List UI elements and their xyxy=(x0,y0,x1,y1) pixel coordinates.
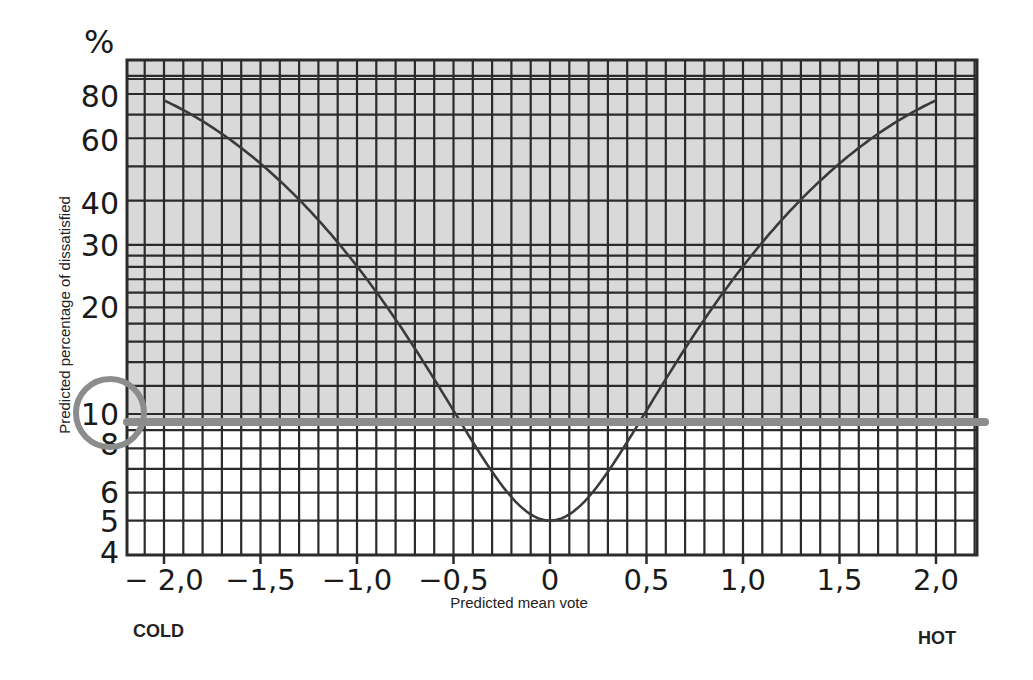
x-tick-label: − 2,0 xyxy=(124,563,204,597)
x-tick-label: −1,0 xyxy=(322,563,392,597)
y-tick-label: 40 xyxy=(81,186,119,221)
y-tick-label: 20 xyxy=(81,290,119,325)
x-tick-labels: − 2,0−1,5−1,0−0,500,51,01,52,0 xyxy=(124,563,959,597)
y-axis-title: Predicted percentage of dissatisfied xyxy=(56,196,73,434)
x-tick-label: −0,5 xyxy=(418,563,488,597)
cold-label: COLD xyxy=(133,621,184,641)
x-tick-label: 0 xyxy=(541,563,559,597)
ppd-chart: 4568102030406080 − 2,0−1,5−1,0−0,500,51,… xyxy=(0,0,1033,680)
y-tick-label: 30 xyxy=(81,228,119,263)
x-tick-label: 0,5 xyxy=(623,563,669,597)
hot-label: HOT xyxy=(918,628,956,648)
x-tick-label: 1,0 xyxy=(720,563,766,597)
y-tick-label: 10 xyxy=(81,397,119,432)
x-tick-label: −1,5 xyxy=(225,563,295,597)
y-unit-label: % xyxy=(84,23,114,61)
y-tick-label: 80 xyxy=(81,79,119,114)
x-axis-title: Predicted mean vote xyxy=(450,594,588,611)
y-tick-label: 6 xyxy=(100,475,119,510)
x-tick-label: 2,0 xyxy=(913,563,959,597)
lower-white-band xyxy=(127,420,977,555)
y-tick-labels: 4568102030406080 xyxy=(81,79,119,570)
y-tick-label: 4 xyxy=(100,535,119,570)
x-tick-label: 1,5 xyxy=(816,563,862,597)
plot-area xyxy=(127,60,985,564)
y-tick-label: 60 xyxy=(81,123,119,158)
